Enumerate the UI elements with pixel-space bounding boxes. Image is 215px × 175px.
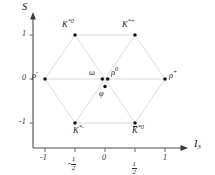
- x-axis-label: I3: [194, 139, 201, 150]
- y-tick-label-0: 0: [22, 74, 26, 82]
- y-axis-arrowhead: [30, 12, 36, 20]
- x-axis-arrowhead: [181, 145, 189, 151]
- label-rho-minus: ρ-: [32, 71, 38, 80]
- hexagon-interior-lines: [45, 35, 165, 123]
- x-tick-label-half: 1 2: [132, 153, 137, 175]
- label-omega: ω: [89, 68, 95, 77]
- label-k-star-plus: K*+: [122, 20, 135, 29]
- su3-weight-diagram-figure: K*0 K*+ ρ- ω ρ0 φ ρ+ K*- K*0 1 0 -1 -1 -…: [0, 0, 215, 175]
- x-tick-label-1: 1: [163, 154, 167, 162]
- label-k-star-0: K*0: [62, 20, 74, 29]
- diagram-canvas: [0, 0, 215, 175]
- label-k-bar-star-0: K*0: [132, 126, 144, 135]
- label-k-star-minus: K*-: [73, 126, 84, 135]
- y-tick-label-1: 1: [22, 30, 26, 38]
- point-rho-minus: [43, 77, 47, 81]
- fraction-half: 1 2: [71, 156, 76, 171]
- x-tick-label-0: 0: [102, 154, 106, 162]
- x-tick-label-minus1: -1: [40, 154, 47, 162]
- x-axis-ticks: [45, 148, 165, 152]
- point-k-star-plus: [133, 33, 137, 37]
- label-phi: φ: [99, 89, 104, 98]
- x-tick-label-minus-half: - 1 2: [68, 153, 76, 172]
- label-rho-zero: ρ0: [111, 68, 118, 77]
- y-axis-label: S: [22, 2, 27, 13]
- fraction-half-positive: 1 2: [132, 161, 137, 175]
- point-omega: [101, 77, 105, 81]
- label-rho-plus: ρ+: [169, 71, 177, 80]
- point-rho-plus: [163, 77, 167, 81]
- point-rho-zero: [106, 77, 110, 81]
- overline-wrapper: K: [132, 126, 138, 135]
- y-tick-label-minus1: -1: [19, 118, 26, 126]
- point-k-star-0: [73, 33, 77, 37]
